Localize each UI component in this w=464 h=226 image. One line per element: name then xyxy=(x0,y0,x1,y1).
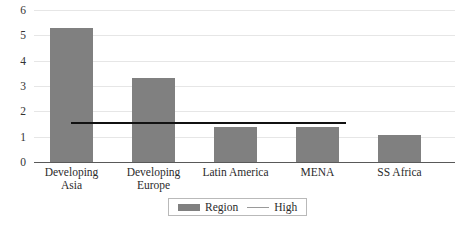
threshold-line-high xyxy=(71,122,346,124)
y-tick-label: 5 xyxy=(0,30,26,41)
bar-developing-europe xyxy=(132,78,175,162)
y-tick-label: 2 xyxy=(0,106,26,117)
x-tick-label-line: Europe xyxy=(111,179,196,192)
axis-baseline xyxy=(34,162,455,163)
x-tick-label-line: SS Africa xyxy=(357,166,442,179)
y-tick-label: 6 xyxy=(0,5,26,16)
x-tick-label-developing-europe: Developing Europe xyxy=(111,166,196,192)
x-tick-label-line: Developing xyxy=(111,166,196,179)
x-tick-label-developing-asia: Developing Asia xyxy=(29,166,114,192)
y-tick-label: 1 xyxy=(0,132,26,143)
x-tick-label-latin-america: Latin America xyxy=(193,166,278,179)
legend-line-swatch-icon xyxy=(247,207,269,208)
y-axis: 6 5 4 3 2 1 0 xyxy=(0,10,30,162)
legend-item-region: Region xyxy=(178,201,238,213)
bars-layer xyxy=(34,10,455,162)
legend-item-high: High xyxy=(247,201,297,213)
legend-bar-swatch-icon xyxy=(178,204,200,211)
y-tick-label: 4 xyxy=(0,56,26,67)
legend-label-high: High xyxy=(274,201,297,213)
x-tick-label-mena: MENA xyxy=(275,166,360,179)
bar-chart: 6 5 4 3 2 1 0 Developing Asia Developing xyxy=(0,0,464,226)
bar-ss-africa xyxy=(378,135,421,162)
x-tick-label-line: Developing xyxy=(29,166,114,179)
y-tick-label: 3 xyxy=(0,81,26,92)
legend-label-region: Region xyxy=(205,201,238,213)
x-tick-label-line: MENA xyxy=(275,166,360,179)
x-tick-label-line: Asia xyxy=(29,179,114,192)
x-axis-labels: Developing Asia Developing Europe Latin … xyxy=(34,166,455,200)
y-tick-label: 0 xyxy=(0,157,26,168)
bar-mena xyxy=(296,127,339,163)
bar-developing-asia xyxy=(50,28,93,162)
x-tick-label-ss-africa: SS Africa xyxy=(357,166,442,179)
x-tick-label-line: Latin America xyxy=(193,166,278,179)
chart-legend: Region High xyxy=(168,198,307,216)
bar-latin-america xyxy=(214,127,257,163)
